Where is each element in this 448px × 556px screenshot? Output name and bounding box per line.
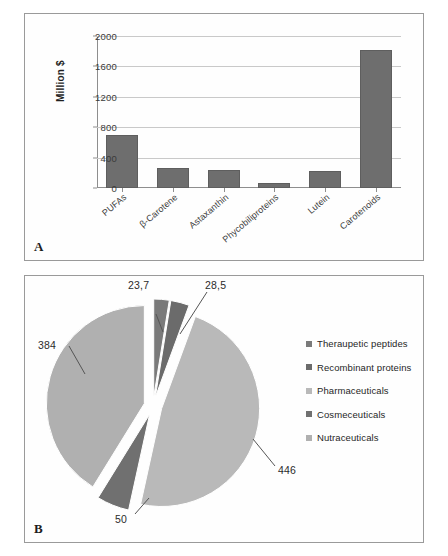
y-tick-label: 2000 [95,31,117,42]
pie-value-label: 446 [278,464,296,476]
bar-chart-x-tick-labels: PUFAsβ-CaroteneAstaxanthinPhycobiliprote… [97,190,401,254]
legend-item[interactable]: Recombinant proteins [306,362,418,373]
x-tick-label: PUFAs [100,192,128,218]
legend-label: Recombinant proteins [317,362,411,373]
x-label-slot: Carotenoids [350,190,401,254]
y-tick-label: 800 [101,122,117,133]
x-label-slot: Phycobiliproteins [249,190,300,254]
pie-value-label: 28,5 [205,279,226,291]
bar-chart-plot-area [97,36,401,188]
legend-item[interactable]: Nutraceuticals [306,432,418,443]
legend-swatch-icon [306,364,312,370]
pie-value-label: 50 [115,513,127,525]
pie-chart-legend: Theraupetic peptidesRecombinant proteins… [306,338,418,456]
bar-chart-bars [97,36,401,188]
pie-chart-plot-area [25,276,295,544]
bar-slot [249,36,300,188]
legend-label: Pharmaceuticals [317,385,389,396]
y-tick-label: 1200 [95,91,117,102]
legend-item[interactable]: Pharmaceuticals [306,385,418,396]
panel-b-label: B [34,521,43,537]
y-tick-label: 1600 [95,61,117,72]
bar[interactable] [208,170,240,188]
bar-slot [300,36,351,188]
pie-value-label: 384 [38,339,56,351]
bar-slot [148,36,199,188]
legend-swatch-icon [306,411,312,417]
legend-item[interactable]: Theraupetic peptides [306,338,418,349]
bar-slot [97,36,148,188]
bar[interactable] [157,168,189,188]
panel-a-bar-chart: Million $ 0400800120016002000 PUFAsβ-Car… [24,13,424,261]
legend-swatch-icon [306,341,312,347]
legend-item[interactable]: Cosmeceuticals [306,409,418,420]
legend-label: Theraupetic peptides [317,338,408,349]
bar[interactable] [360,50,392,188]
pie-leader-line [253,439,275,466]
pie-chart-svg [25,276,295,544]
pie-value-label: 23,7 [128,279,149,291]
pie-slice-group [46,299,259,510]
bar-slot [350,36,401,188]
bar-chart-y-axis-title: Million $ [55,60,66,102]
y-tick-label: 400 [101,152,117,163]
panel-a-label: A [34,239,44,255]
panel-b-pie-chart: 23,728,544650384 Theraupetic peptidesRec… [24,275,424,543]
legend-swatch-icon [306,435,312,441]
legend-label: Cosmeceuticals [317,409,385,420]
x-tick-label: Lutein [306,192,332,216]
bar-slot [198,36,249,188]
legend-label: Nutraceuticals [317,432,379,443]
bar[interactable] [309,171,341,188]
legend-swatch-icon [306,388,312,394]
